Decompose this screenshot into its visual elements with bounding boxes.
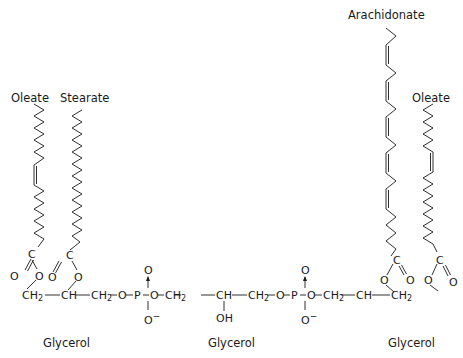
- atom-carbonyl-c-2: C: [66, 250, 74, 261]
- atom-ester-o-3: O: [380, 275, 389, 286]
- atom-phosphate-o-top-1: O: [144, 265, 153, 276]
- atom-carbonyl-c-1: C: [28, 249, 36, 260]
- fatty-acid-label-oleate-left: Oleate: [11, 92, 49, 104]
- fatty-acid-label-arachidonate: Arachidonate: [348, 9, 425, 21]
- oleate-left-chain: [34, 104, 44, 247]
- arachidonate-right-chain: [386, 28, 396, 256]
- atom-carbonyl-o-1: O: [10, 271, 19, 282]
- atom-phosphate-o-bottom-1: O−: [144, 311, 160, 326]
- stearate-left-chain: [70, 110, 82, 250]
- fatty-acid-label-stearate: Stearate: [60, 92, 109, 104]
- atom-oh: OH: [216, 313, 233, 324]
- atom-ch-1: CH: [61, 290, 77, 301]
- atom-ch2-5: CH2: [323, 290, 344, 304]
- atom-ch-2: CH: [356, 290, 372, 301]
- fatty-acid-label-oleate-right: Oleate: [412, 92, 450, 104]
- structure-bonds: [0, 0, 463, 358]
- glycerol-label-middle: Glycerol: [208, 337, 255, 349]
- atom-carbonyl-c-4: C: [436, 255, 444, 266]
- atom-bridge-o-3: O: [276, 290, 285, 301]
- atom-ch2-3: CH2: [165, 290, 186, 304]
- atom-ch2-1: CH2: [22, 290, 43, 304]
- atom-ch-middle: CH: [216, 290, 232, 301]
- atom-ester-o-2: O: [74, 272, 83, 283]
- atom-carbonyl-o-3: O: [406, 275, 415, 286]
- atom-bridge-o-1: O: [118, 290, 127, 301]
- atom-carbonyl-o-2: O: [48, 272, 57, 283]
- atom-ch2-6: CH2: [391, 290, 412, 304]
- atom-phosphorus-1: P: [134, 290, 141, 301]
- atom-ch2-4: CH2: [248, 290, 269, 304]
- atom-carbonyl-o-4: O: [449, 277, 458, 288]
- atom-ester-o-4: O: [424, 275, 433, 286]
- atom-carbonyl-c-3: C: [393, 255, 401, 266]
- glycerol-label-right: Glycerol: [388, 337, 435, 349]
- atom-bridge-o-4: O: [307, 290, 316, 301]
- atom-bridge-o-2: O: [150, 290, 159, 301]
- atom-ester-o-1: O: [35, 271, 44, 282]
- atom-phosphorus-2: P: [291, 290, 298, 301]
- atom-phosphate-o-top-2: O: [301, 265, 310, 276]
- right-ester-bonds: [386, 264, 451, 292]
- glycerol-label-left: Glycerol: [43, 337, 90, 349]
- oleate-right-chain: [423, 104, 437, 252]
- atom-phosphate-o-bottom-2: O−: [301, 311, 317, 326]
- atom-ch2-2: CH2: [91, 290, 112, 304]
